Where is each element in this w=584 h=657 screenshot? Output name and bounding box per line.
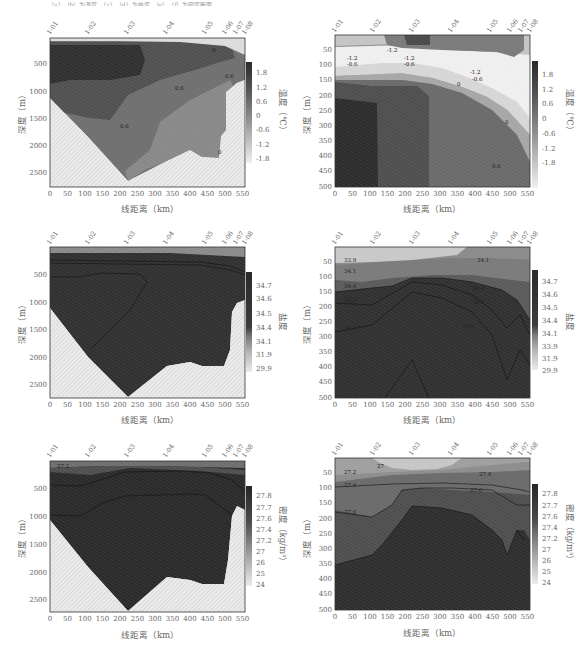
svg-text:50: 50 xyxy=(63,615,72,623)
svg-text:2500: 2500 xyxy=(29,169,47,177)
svg-text:250: 250 xyxy=(319,107,332,115)
svg-text:350: 350 xyxy=(166,401,179,409)
svg-text:0: 0 xyxy=(333,190,337,198)
svg-text:31.9: 31.9 xyxy=(256,351,272,359)
colorbar-label: 温度（℃） xyxy=(565,89,575,135)
svg-text:27.7: 27.7 xyxy=(256,504,272,512)
svg-text:50: 50 xyxy=(323,469,332,477)
svg-text:2000: 2000 xyxy=(29,569,47,577)
svg-text:1-05: 1-05 xyxy=(200,443,215,460)
svg-text:550: 550 xyxy=(521,613,534,621)
svg-text:200: 200 xyxy=(398,190,411,198)
svg-text:500: 500 xyxy=(34,60,47,68)
colorbar-label: 盐度 xyxy=(278,313,288,331)
svg-text:27.4: 27.4 xyxy=(542,524,558,532)
y-axis-ticks: 50 100 150 200 250 300 350 400 450 500 xyxy=(319,46,332,191)
svg-text:0.6: 0.6 xyxy=(542,100,554,108)
svg-text:1-03: 1-03 xyxy=(122,443,137,460)
svg-text:100: 100 xyxy=(78,615,91,623)
svg-text:-0.6: -0.6 xyxy=(404,61,415,67)
svg-text:1-03: 1-03 xyxy=(407,441,422,458)
colorbar-ticks: 27.8 27.7 27.6 27.4 27.2 27 26 25 24 xyxy=(542,490,558,587)
svg-text:1-04: 1-04 xyxy=(161,230,176,247)
svg-text:550: 550 xyxy=(236,190,249,198)
svg-text:1-05: 1-05 xyxy=(200,20,215,37)
svg-text:27: 27 xyxy=(256,548,265,556)
svg-text:-0.6: -0.6 xyxy=(472,76,483,82)
svg-text:50: 50 xyxy=(323,258,332,266)
svg-text:300: 300 xyxy=(433,190,446,198)
svg-text:34.4: 34.4 xyxy=(472,285,485,291)
chart-svg: 1-01 1-02 1-03 1-04 1-05 1-06 1-07 1-08 … xyxy=(0,0,292,220)
svg-text:100: 100 xyxy=(363,190,376,198)
svg-text:450: 450 xyxy=(201,190,214,198)
svg-text:400: 400 xyxy=(468,190,481,198)
svg-text:1.2: 1.2 xyxy=(256,84,267,92)
svg-text:0: 0 xyxy=(48,190,52,198)
svg-text:500: 500 xyxy=(218,615,231,623)
svg-text:300: 300 xyxy=(148,401,161,409)
colorbar-label: 密度（kg/m³） xyxy=(565,504,575,565)
svg-text:1000: 1000 xyxy=(29,299,47,307)
svg-text:34.7: 34.7 xyxy=(542,278,558,286)
svg-text:1000: 1000 xyxy=(29,88,47,96)
svg-text:34.1: 34.1 xyxy=(542,330,558,338)
svg-text:0: 0 xyxy=(333,401,337,409)
svg-text:300: 300 xyxy=(319,122,332,130)
colorbar-ticks: 27.8 27.7 27.6 27.4 27.2 27 26 25 24 xyxy=(256,492,272,589)
x-axis-label: 线距离（km） xyxy=(121,204,179,214)
svg-text:27.6: 27.6 xyxy=(470,487,483,493)
svg-text:50: 50 xyxy=(348,401,357,409)
svg-text:450: 450 xyxy=(486,401,499,409)
svg-text:50: 50 xyxy=(63,190,72,198)
svg-text:27.2: 27.2 xyxy=(57,463,69,469)
svg-text:150: 150 xyxy=(319,499,332,507)
x-axis-ticks: 0 50 100 150 200 250 300 350 400 450 500… xyxy=(333,190,534,198)
colorbar xyxy=(246,486,252,586)
svg-text:250: 250 xyxy=(319,318,332,326)
svg-text:150: 150 xyxy=(319,76,332,84)
panel-c-salinity-deep: 1-01 1-02 1-03 1-04 1-05 1-06 1-07 1-08 … xyxy=(0,220,292,430)
svg-text:34.4: 34.4 xyxy=(256,324,272,332)
svg-text:1-02: 1-02 xyxy=(83,20,98,37)
y-axis-label: 深度（m） xyxy=(17,300,27,344)
svg-text:500: 500 xyxy=(503,613,516,621)
y-axis-label: 深度（m） xyxy=(302,300,312,344)
svg-text:250: 250 xyxy=(131,190,144,198)
panel-f-density-shallow: 1-01 1-02 1-03 1-04 1-05 1-06 1-07 1-08 … xyxy=(292,430,584,657)
svg-text:0: 0 xyxy=(256,112,260,120)
svg-text:24: 24 xyxy=(256,581,265,589)
svg-text:150: 150 xyxy=(319,288,332,296)
svg-text:1-01: 1-01 xyxy=(330,230,345,247)
svg-text:-1.8: -1.8 xyxy=(542,159,556,167)
svg-text:50: 50 xyxy=(348,190,357,198)
svg-text:300: 300 xyxy=(319,333,332,341)
svg-text:2000: 2000 xyxy=(29,142,47,150)
svg-text:450: 450 xyxy=(486,613,499,621)
svg-text:33.9: 33.9 xyxy=(344,257,357,263)
svg-text:300: 300 xyxy=(433,613,446,621)
svg-text:34.4: 34.4 xyxy=(542,317,558,325)
svg-text:1-04: 1-04 xyxy=(446,230,461,247)
svg-text:350: 350 xyxy=(451,401,464,409)
svg-text:1500: 1500 xyxy=(29,326,47,334)
svg-text:100: 100 xyxy=(319,273,332,281)
svg-text:34.1: 34.1 xyxy=(477,257,489,263)
y-axis-label: 深度（m） xyxy=(302,90,312,134)
colorbar xyxy=(532,61,538,188)
svg-text:27: 27 xyxy=(377,463,384,469)
svg-text:100: 100 xyxy=(319,484,332,492)
svg-text:150: 150 xyxy=(381,613,394,621)
colorbar xyxy=(246,272,252,372)
svg-text:1-01: 1-01 xyxy=(45,230,60,247)
svg-text:300: 300 xyxy=(148,615,161,623)
svg-text:1-05: 1-05 xyxy=(485,441,500,458)
svg-text:400: 400 xyxy=(319,363,332,371)
x-axis-label: 线距离（km） xyxy=(403,204,461,214)
svg-text:400: 400 xyxy=(319,152,332,160)
svg-text:-0.6: -0.6 xyxy=(256,126,270,134)
svg-text:450: 450 xyxy=(201,401,214,409)
svg-text:27.8: 27.8 xyxy=(542,490,558,498)
svg-text:400: 400 xyxy=(468,401,481,409)
station-labels: 1-01 1-02 1-03 1-04 1-05 1-06 1-07 1-08 xyxy=(45,443,255,460)
